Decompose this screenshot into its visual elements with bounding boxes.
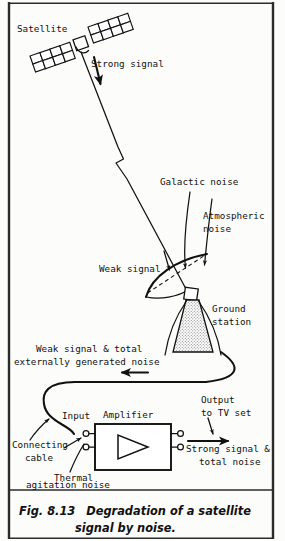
- label-thermal-line2: agitation noise: [26, 479, 110, 490]
- satellite-noise-diagram: Satellite Strong signal Galactic noise A…: [0, 0, 285, 541]
- figure-page: Satellite Strong signal Galactic noise A…: [0, 0, 285, 541]
- label-atmospheric-noise-line1: Atmospheric: [203, 210, 265, 221]
- label-galactic-noise: Galactic noise: [160, 176, 239, 187]
- label-weak-total-line2: externally generated noise: [14, 356, 160, 367]
- label-ground-station-line1: Ground: [212, 303, 246, 314]
- label-connecting-cable-line2: cable: [25, 452, 53, 463]
- dish-feed-block: [184, 287, 199, 301]
- label-connecting-cable-line1: Connecting: [12, 439, 68, 450]
- label-weak-total-line1: Weak signal & total: [36, 343, 142, 354]
- label-amplifier: Amplifier: [103, 409, 154, 420]
- label-strong-signal: Strong signal: [91, 58, 164, 69]
- amp-output-terminal-top: [178, 431, 184, 437]
- label-satellite: Satellite: [17, 23, 68, 34]
- label-ground-station-line2: station: [212, 316, 251, 327]
- figure-caption-line1: Fig. 8.13 Degradation of a satellite: [19, 504, 251, 518]
- label-weak-signal: Weak signal: [99, 263, 161, 274]
- label-input: Input: [62, 410, 90, 421]
- figure-number: Fig. 8.13: [19, 504, 75, 518]
- figure-caption-line2: signal by noise.: [75, 521, 176, 535]
- label-strong-total-line1: Strong signal &: [186, 443, 270, 454]
- label-strong-total-line2: total noise: [199, 456, 261, 467]
- label-output-line2: to TV set: [201, 407, 251, 418]
- amp-output-terminal-bottom: [178, 444, 184, 450]
- label-output-line1: Output: [201, 394, 235, 405]
- amp-input-terminal-top: [83, 431, 89, 437]
- label-atmospheric-noise-line2: noise: [203, 223, 231, 234]
- figure-caption-text-line1: Degradation of a satellite: [86, 504, 251, 518]
